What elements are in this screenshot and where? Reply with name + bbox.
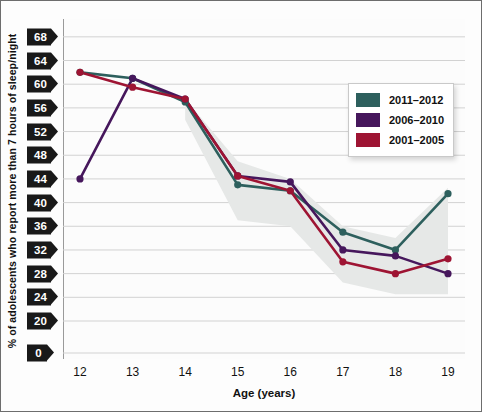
x-tick-label: 12 <box>73 365 86 379</box>
y-tick-label: 40 <box>27 194 51 211</box>
legend-item: 2011–2012 <box>356 90 444 110</box>
y-tick: 52 <box>27 123 51 140</box>
data-point <box>76 69 83 76</box>
data-point <box>339 229 346 236</box>
y-tick: 32 <box>27 241 51 258</box>
chart-canvas <box>63 19 465 359</box>
x-tick-label: 15 <box>231 365 244 379</box>
chart-legend: 2011–20122006–20102001–2005 <box>348 83 454 157</box>
y-tick-label: 20 <box>27 313 51 330</box>
y-tick-label: 56 <box>27 99 51 116</box>
y-axis-title: % of adolescents who report more than 7 … <box>1 1 23 381</box>
y-tick: 40 <box>27 194 51 211</box>
data-point <box>287 187 294 194</box>
x-tick-label: 14 <box>178 365 191 379</box>
y-tick-label: 32 <box>27 241 51 258</box>
y-tick-label: 44 <box>27 170 51 187</box>
x-tick-label: 13 <box>126 365 139 379</box>
chart-figure: % of adolescents who report more than 7 … <box>0 0 482 412</box>
y-tick: 60 <box>27 76 51 93</box>
x-tick-label: 19 <box>441 365 454 379</box>
y-tick: 36 <box>27 218 51 235</box>
data-point <box>129 75 136 82</box>
data-point <box>339 258 346 265</box>
y-tick-label: 68 <box>27 28 51 45</box>
data-point <box>182 95 189 102</box>
data-point <box>444 255 451 262</box>
data-point <box>444 190 451 197</box>
y-tick-label: 52 <box>27 123 51 140</box>
data-point <box>287 178 294 185</box>
y-tick: 28 <box>27 265 51 282</box>
y-tick-label: 0 <box>27 345 47 362</box>
data-point <box>339 246 346 253</box>
data-point <box>392 270 399 277</box>
data-point <box>234 181 241 188</box>
data-point <box>392 252 399 259</box>
y-tick-label: 60 <box>27 76 51 93</box>
legend-label: 2011–2012 <box>389 94 443 106</box>
y-tick-label: 48 <box>27 147 51 164</box>
legend-label: 2001–2005 <box>389 134 444 146</box>
plot-area <box>63 19 465 359</box>
y-tick-label: 28 <box>27 265 51 282</box>
legend-swatch <box>356 93 380 107</box>
y-tick: 64 <box>27 52 51 69</box>
y-axis-title-text: % of adolescents who report more than 7 … <box>6 34 18 349</box>
y-tick: 44 <box>27 170 51 187</box>
y-tick: 68 <box>27 28 51 45</box>
data-point <box>234 172 241 179</box>
y-tick: 56 <box>27 99 51 116</box>
x-tick-label: 17 <box>336 365 349 379</box>
y-tick-label: 24 <box>27 289 51 306</box>
y-tick: 24 <box>27 289 51 306</box>
legend-item: 2001–2005 <box>356 130 444 150</box>
data-point <box>76 175 83 182</box>
data-point <box>444 270 451 277</box>
legend-swatch <box>356 113 380 127</box>
x-axis-title: Age (years) <box>63 387 465 399</box>
x-tick-label: 16 <box>284 365 297 379</box>
y-tick: 48 <box>27 147 51 164</box>
data-point <box>129 84 136 91</box>
y-tick-label: 36 <box>27 218 51 235</box>
legend-swatch <box>356 133 380 147</box>
y-tick-label: 64 <box>27 52 51 69</box>
legend-item: 2006–2010 <box>356 110 444 130</box>
y-tick: 20 <box>27 313 51 330</box>
y-tick: 0 <box>27 345 47 362</box>
x-tick-label: 18 <box>389 365 402 379</box>
legend-label: 2006–2010 <box>389 114 444 126</box>
